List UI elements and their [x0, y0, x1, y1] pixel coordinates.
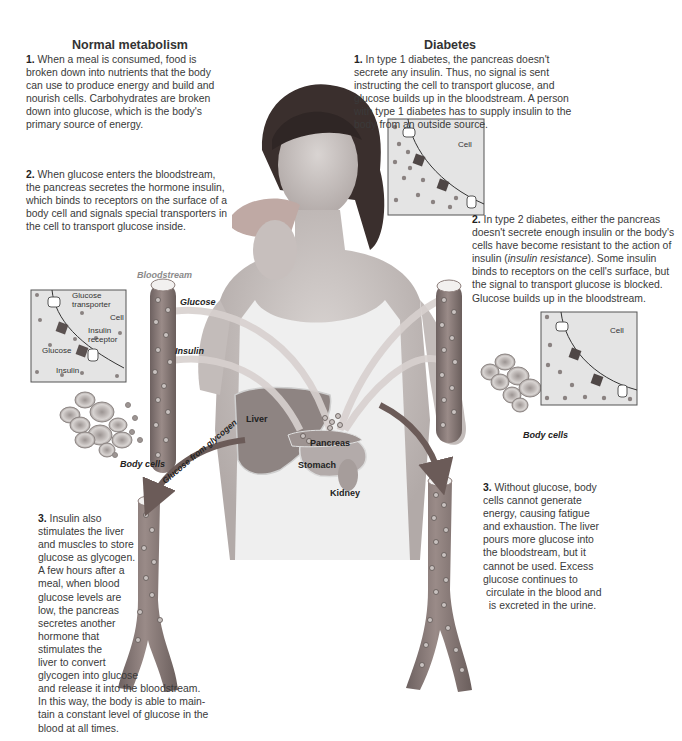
inset-glucose-label: Glucose [42, 346, 71, 355]
insulin-resistance-term: insulin resistance [508, 253, 588, 264]
diabetes-step-1-number: 1. [354, 54, 363, 65]
inset-type1-cell-label: Cell [458, 140, 472, 149]
bloodstream-vessel-left [150, 279, 176, 473]
normal-step-2-number: 2. [26, 169, 35, 180]
normal-step-3-number: 3. [38, 513, 47, 524]
bloodstream-label: Bloodstream [137, 270, 192, 280]
inset-type1-cell [388, 119, 484, 215]
normal-step-1: 1. When a meal is consumed, food is brok… [26, 53, 216, 132]
pancreas-label: Pancreas [310, 438, 350, 448]
inset-normal-cell-label: Cell [110, 313, 124, 322]
normal-step-2-text: When glucose enters the bloodstream, the… [26, 169, 227, 232]
diabetes-step-1: 1. In type 1 diabetes, the pancreas does… [354, 53, 584, 132]
diabetes-step-2: 2. In type 2 diabetes, either the pancre… [472, 213, 678, 305]
liver-label: Liver [246, 414, 268, 424]
body-cells-right [481, 354, 541, 412]
diabetes-step-3-number: 3. [483, 482, 492, 493]
glucose-label: Glucose [180, 297, 216, 307]
normal-step-1-number: 1. [26, 54, 35, 65]
diabetes-heading: Diabetes [400, 38, 500, 52]
body-cells-left [60, 392, 143, 458]
normal-metabolism-heading: Normal metabolism [60, 38, 200, 52]
diabetes-step-1-text: In type 1 diabetes, the pancreas doesn't… [354, 54, 571, 130]
insulin-receptor-label: Insulin receptor [88, 326, 117, 344]
kidney-label: Kidney [330, 488, 360, 498]
normal-step-1-text: When a meal is consumed, food is broken … [26, 54, 214, 130]
glucose-transporter-label: Glucose transporter [72, 291, 111, 309]
bloodstream-vessel-right [436, 280, 462, 443]
stomach-label: Stomach [298, 460, 336, 470]
inset-type2-cell-label: Cell [610, 326, 624, 335]
inset-insulin-label: Insulin [56, 366, 79, 375]
normal-step-2: 2. When glucose enters the bloodstream, … [26, 168, 231, 233]
normal-step-3: 3. Insulin also stimulates the liver and… [38, 512, 228, 735]
insulin-label: Insulin [175, 346, 204, 356]
diabetes-step-2-number: 2. [472, 214, 481, 225]
diabetes-step-3: 3. Without glucose, body cells cannot ge… [483, 481, 663, 612]
body-cells-right-label: Body cells [523, 430, 568, 440]
body-cells-left-label: Body cells [120, 459, 165, 469]
